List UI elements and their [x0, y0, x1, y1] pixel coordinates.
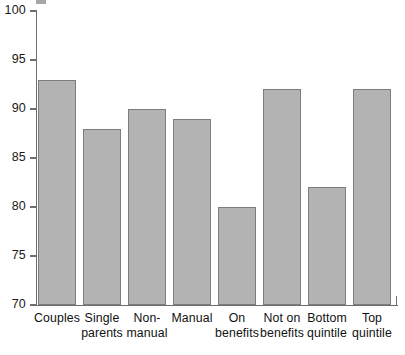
y-axis-tick: [30, 304, 37, 305]
x-axis-label: Top quintile: [349, 311, 395, 340]
y-axis-tick-label: 80: [0, 199, 26, 213]
y-axis-tick: [30, 108, 37, 109]
y-axis-tick: [30, 59, 37, 60]
bar: [173, 119, 211, 305]
x-axis-end-tick: [396, 296, 397, 306]
y-axis-tick-label: 75: [0, 248, 26, 262]
bar: [263, 89, 301, 305]
y-axis-tick-label: 90: [0, 101, 26, 115]
bar: [308, 187, 346, 305]
bar: [128, 109, 166, 305]
bar: [83, 129, 121, 305]
x-axis-label: On benefits: [214, 311, 260, 340]
bar: [353, 89, 391, 305]
x-axis-label: Manual: [169, 311, 215, 326]
x-axis-label: Non- manual: [124, 311, 170, 340]
x-axis-label: Bottom quintile: [304, 311, 350, 340]
bar: [218, 207, 256, 305]
y-axis-tick: [30, 10, 37, 11]
bar: [38, 80, 76, 305]
chart-screenshot: 707580859095100 CouplesSingle parentsNon…: [0, 0, 405, 355]
x-axis-label: Single parents: [79, 311, 125, 340]
y-axis-tick: [30, 206, 37, 207]
y-axis-tick-label: 100: [0, 3, 26, 17]
y-axis-tick: [30, 255, 37, 256]
x-axis-line: [36, 305, 398, 306]
y-axis-tick-label: 95: [0, 52, 26, 66]
bar-chart-plot: 707580859095100 CouplesSingle parentsNon…: [0, 0, 405, 355]
y-axis-tick-label: 85: [0, 150, 26, 164]
x-axis-label: Couples: [34, 311, 80, 326]
y-axis-tick-label: 70: [0, 297, 26, 311]
y-axis-tick: [30, 157, 37, 158]
x-axis-label: Not on benefits: [259, 311, 305, 340]
